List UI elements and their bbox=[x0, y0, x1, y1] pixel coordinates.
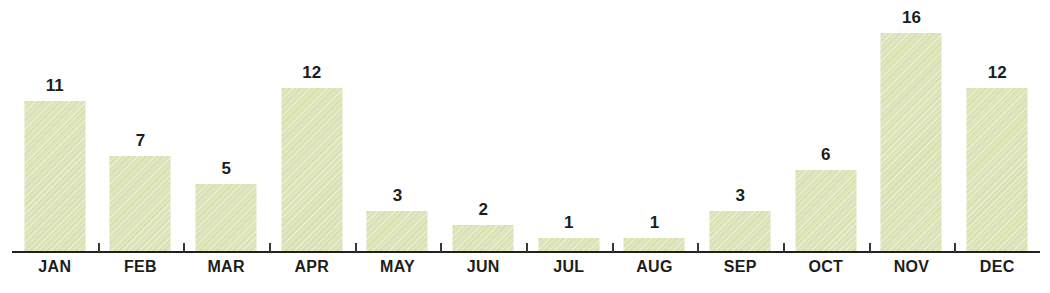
bar-value-label: 6 bbox=[821, 146, 830, 163]
bar-value-label: 11 bbox=[46, 77, 64, 94]
bar-chart: 1175123211361612 JANFEBMARAPRMAYJUNJULAU… bbox=[0, 0, 1050, 293]
bar-value-label: 1 bbox=[564, 214, 573, 231]
bar-value-label: 3 bbox=[735, 187, 744, 204]
plot-area: 1175123211361612 JANFEBMARAPRMAYJUNJULAU… bbox=[0, 0, 1050, 293]
category-label-jan: JAN bbox=[38, 258, 71, 276]
bar-slot: 3 bbox=[697, 0, 783, 252]
bars-layer: 1175123211361612 bbox=[12, 0, 1040, 252]
bar-slot: 6 bbox=[783, 0, 869, 252]
bar[interactable] bbox=[967, 88, 1028, 252]
axis-tick bbox=[954, 243, 956, 252]
bar[interactable] bbox=[624, 238, 685, 252]
bar-value-label: 3 bbox=[393, 187, 402, 204]
category-label-nov: NOV bbox=[894, 258, 930, 276]
category-label-feb: FEB bbox=[124, 258, 157, 276]
bar-value-label: 1 bbox=[650, 214, 659, 231]
bar[interactable] bbox=[367, 211, 428, 252]
category-label-jun: JUN bbox=[467, 258, 500, 276]
category-label-oct: OCT bbox=[808, 258, 843, 276]
bar-value-label: 12 bbox=[988, 64, 1007, 81]
bar-slot: 7 bbox=[98, 0, 184, 252]
x-axis-labels: JANFEBMARAPRMAYJUNJULAUGSEPOCTNOVDEC bbox=[12, 258, 1040, 286]
category-label-apr: APR bbox=[294, 258, 329, 276]
bar-value-label: 5 bbox=[221, 160, 230, 177]
axis-tick bbox=[440, 243, 442, 252]
category-label-aug: AUG bbox=[636, 258, 672, 276]
bar-slot: 1 bbox=[612, 0, 698, 252]
bar-slot: 1 bbox=[526, 0, 612, 252]
bar-slot: 2 bbox=[440, 0, 526, 252]
axis-tick bbox=[269, 243, 271, 252]
axis-tick bbox=[355, 243, 357, 252]
bar-slot: 3 bbox=[355, 0, 441, 252]
category-label-may: MAY bbox=[380, 258, 415, 276]
axis-tick bbox=[869, 243, 871, 252]
bar-slot: 16 bbox=[869, 0, 955, 252]
axis-tick bbox=[98, 243, 100, 252]
bar-slot: 5 bbox=[183, 0, 269, 252]
bar[interactable] bbox=[196, 184, 257, 252]
axis-tick bbox=[183, 243, 185, 252]
bar[interactable] bbox=[538, 238, 599, 252]
bar[interactable] bbox=[795, 170, 856, 252]
category-label-jul: JUL bbox=[553, 258, 584, 276]
bar-value-label: 2 bbox=[478, 201, 487, 218]
bar[interactable] bbox=[453, 225, 514, 252]
bar-value-label: 7 bbox=[136, 132, 145, 149]
bar-slot: 12 bbox=[269, 0, 355, 252]
bar-slot: 12 bbox=[954, 0, 1040, 252]
bar[interactable] bbox=[281, 88, 342, 252]
category-label-mar: MAR bbox=[207, 258, 244, 276]
bar[interactable] bbox=[24, 101, 85, 252]
bar-value-label: 12 bbox=[302, 64, 321, 81]
bar[interactable] bbox=[110, 156, 171, 252]
axis-tick bbox=[783, 243, 785, 252]
bar[interactable] bbox=[881, 33, 942, 252]
category-label-dec: DEC bbox=[980, 258, 1015, 276]
bar[interactable] bbox=[710, 211, 771, 252]
axis-tick bbox=[697, 243, 699, 252]
bar-slot: 11 bbox=[12, 0, 98, 252]
bar-value-label: 16 bbox=[902, 9, 921, 26]
axis-tick bbox=[612, 243, 614, 252]
axis-tick bbox=[526, 243, 528, 252]
category-label-sep: SEP bbox=[724, 258, 757, 276]
